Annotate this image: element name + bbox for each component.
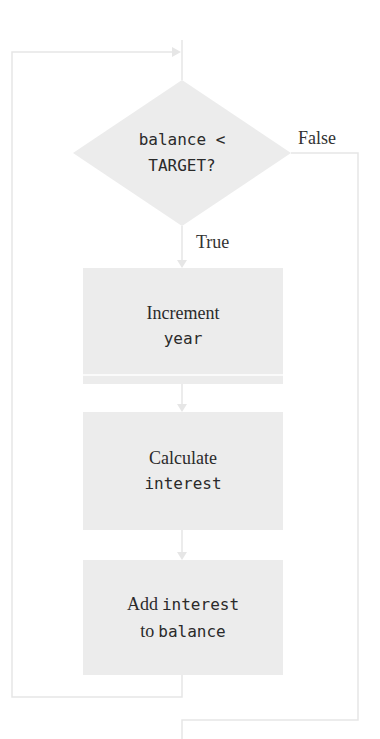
arrow-down-icon (177, 404, 187, 412)
step-add-interest: Add interest to balance (83, 560, 283, 675)
step-text: to (140, 621, 154, 641)
step-increment-year: Increment year (83, 268, 283, 384)
step-calculate-interest: Calculate interest (83, 412, 283, 530)
step-code: interest (144, 471, 221, 497)
true-label: True (196, 232, 229, 253)
step-text: Increment (147, 300, 220, 326)
step-code: balance (158, 622, 225, 641)
decision-line-1: balance < (139, 127, 226, 153)
arrow-down-icon (177, 260, 187, 268)
step-text: Calculate (149, 445, 217, 471)
decision-line-2: TARGET? (148, 153, 215, 179)
step-text: Add (127, 594, 158, 614)
box-divider (83, 374, 283, 376)
loop-arrow-icon (172, 47, 181, 57)
decision-label: balance < TARGET? (73, 118, 291, 188)
step-code: interest (162, 595, 239, 614)
step-code: year (164, 326, 203, 352)
false-label: False (298, 128, 336, 149)
arrow-down-icon (177, 552, 187, 560)
flowchart: balance < TARGET? False True Increment y… (0, 0, 380, 739)
